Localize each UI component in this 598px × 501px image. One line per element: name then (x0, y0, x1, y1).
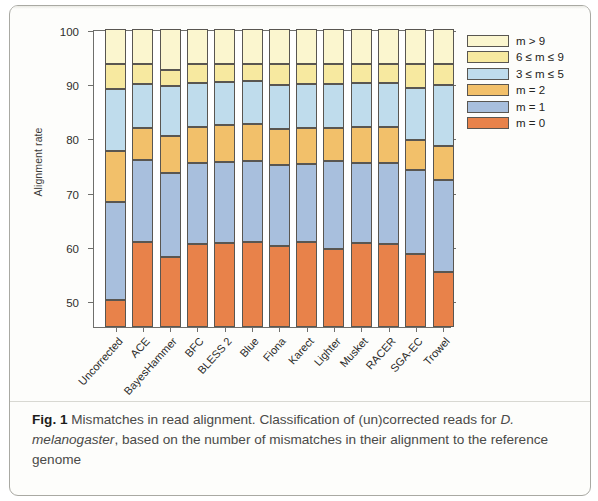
x-tick (252, 327, 253, 332)
legend-label: 3 ≤ m ≤ 5 (516, 68, 564, 80)
legend: m > 96 ≤ m ≤ 93 ≤ m ≤ 5m = 2m = 1m = 0 (467, 34, 564, 130)
figure-caption: Fig. 1 Mismatches in read alignment. Cla… (32, 410, 572, 470)
x-tick (279, 327, 280, 332)
legend-item[interactable]: 6 ≤ m ≤ 9 (467, 51, 564, 64)
legend-label: m = 1 (516, 101, 545, 113)
legend-item[interactable]: 3 ≤ m ≤ 5 (467, 67, 564, 80)
legend-label: m = 2 (516, 84, 545, 96)
caption-divider (10, 401, 590, 402)
x-tick (143, 327, 144, 332)
legend-label: 6 ≤ m ≤ 9 (516, 51, 564, 63)
legend-item[interactable]: m = 2 (467, 84, 564, 97)
x-axis-labels: UncorrectedACEBayesHammerBFCBLESS 2BlueF… (94, 31, 450, 327)
x-tick (416, 327, 417, 332)
y-tick-label: 50 (66, 297, 79, 309)
x-tick (225, 327, 226, 332)
legend-swatch (467, 101, 509, 113)
y-tick-label: 70 (66, 189, 79, 201)
plot-area: 5060708090100 UncorrectedACEBayesHammerB… (93, 30, 451, 328)
x-tick (197, 327, 198, 332)
x-tick (307, 327, 308, 332)
legend-swatch (467, 35, 509, 47)
x-tick (334, 327, 335, 332)
x-tick (389, 327, 390, 332)
caption-text-1: Mismatches in read alignment. Classifica… (68, 412, 501, 427)
legend-swatch (467, 68, 509, 80)
y-tick-label: 90 (66, 80, 79, 92)
y-tick-label: 100 (60, 26, 79, 38)
y-tick-label: 60 (66, 243, 79, 255)
x-tick (116, 327, 117, 332)
legend-swatch (467, 117, 509, 129)
legend-label: m > 9 (516, 35, 545, 47)
legend-swatch (467, 84, 509, 96)
figure-card: Alignment rate 5060708090100 Uncorrected… (9, 5, 591, 496)
x-tick (361, 327, 362, 332)
legend-item[interactable]: m = 1 (467, 100, 564, 113)
caption-label: Fig. 1 (32, 412, 68, 427)
y-axis-title: Alignment rate (32, 87, 44, 237)
x-tick (170, 327, 171, 332)
legend-item[interactable]: m = 0 (467, 117, 564, 130)
chart-region: Alignment rate 5060708090100 Uncorrected… (10, 6, 591, 396)
x-tick (443, 327, 444, 332)
legend-swatch (467, 51, 509, 63)
y-tick-label: 80 (66, 134, 79, 146)
legend-item[interactable]: m > 9 (467, 34, 564, 47)
legend-label: m = 0 (516, 117, 545, 129)
